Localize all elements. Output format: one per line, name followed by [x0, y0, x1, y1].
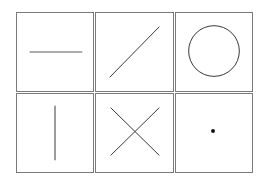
cell-horizontal-line [16, 12, 94, 92]
cell-circle [175, 12, 253, 92]
cell-x-cross [95, 93, 174, 173]
dot-icon [176, 94, 252, 172]
cell-dot [175, 93, 253, 173]
x-cross-icon [96, 94, 173, 172]
cell-diagonal-line [95, 12, 174, 92]
circle-icon [176, 13, 252, 91]
vertical-line-icon [17, 94, 93, 172]
horizontal-line-icon [17, 13, 93, 91]
cell-vertical-line [16, 93, 94, 173]
diagonal-line-icon [96, 13, 173, 91]
